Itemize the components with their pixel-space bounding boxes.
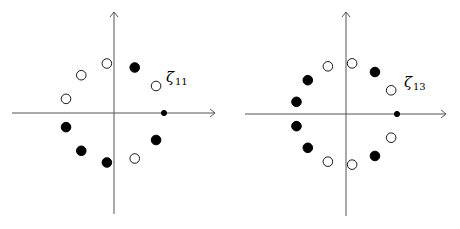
diagram-zeta-13: ζ13 (245, 12, 446, 216)
unity-point (394, 111, 399, 116)
open-root-point (347, 160, 357, 170)
zeta-subscript: 11 (175, 76, 188, 87)
open-root-point (386, 133, 396, 143)
open-root-point (347, 59, 357, 69)
filled-root-point (151, 135, 161, 145)
open-root-point (323, 62, 333, 72)
zeta-label: ζ (166, 68, 175, 86)
filled-root-point (303, 75, 313, 85)
open-root-point (323, 157, 333, 167)
zeta-subscript: 13 (413, 81, 426, 92)
open-root-point (102, 59, 112, 69)
diagram-zeta-11: ζ11 (12, 12, 215, 214)
filled-root-point (370, 67, 380, 77)
open-root-point (76, 70, 86, 80)
open-root-point (386, 85, 396, 95)
open-root-point (151, 81, 161, 91)
open-root-point (130, 154, 140, 164)
unity-point (161, 110, 166, 115)
roots-of-unity-figure: ζ11 ζ13 (0, 0, 460, 229)
filled-root-point (76, 146, 86, 156)
filled-root-point (292, 121, 302, 131)
filled-root-point (102, 158, 112, 168)
filled-root-point (130, 63, 140, 73)
filled-root-point (292, 97, 302, 107)
filled-root-point (61, 122, 71, 132)
filled-root-point (303, 143, 313, 153)
open-root-point (61, 94, 71, 104)
zeta-label: ζ (404, 73, 413, 91)
filled-root-point (370, 151, 380, 161)
